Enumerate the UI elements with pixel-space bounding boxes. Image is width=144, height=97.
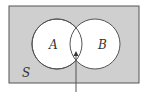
universe-label: S [22, 66, 30, 80]
venn-diagram: A B S [0, 0, 144, 97]
set-b-label: B [97, 38, 107, 52]
set-a-label: A [48, 38, 58, 52]
set-b-circle [70, 19, 120, 69]
